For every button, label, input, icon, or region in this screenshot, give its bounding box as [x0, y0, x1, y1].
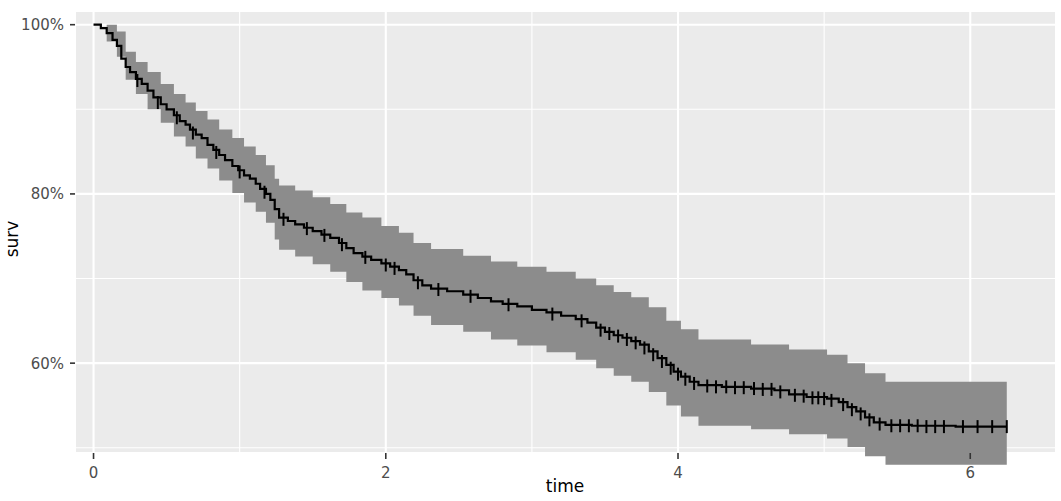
x-tick-label: 6: [965, 464, 975, 482]
y-tick-label: 100%: [21, 16, 64, 34]
chart-root: 60%80%100% 0246 surv time: [0, 0, 1061, 501]
x-tick-label: 4: [673, 464, 683, 482]
y-tick-label: 60%: [31, 355, 64, 373]
y-axis-title: surv: [2, 221, 22, 258]
y-tick-label: 80%: [31, 185, 64, 203]
survival-curve-chart: 60%80%100% 0246 surv time: [0, 0, 1061, 501]
x-axis-title: time: [546, 476, 584, 496]
x-tick-label: 2: [381, 464, 391, 482]
x-tick-label: 0: [89, 464, 99, 482]
